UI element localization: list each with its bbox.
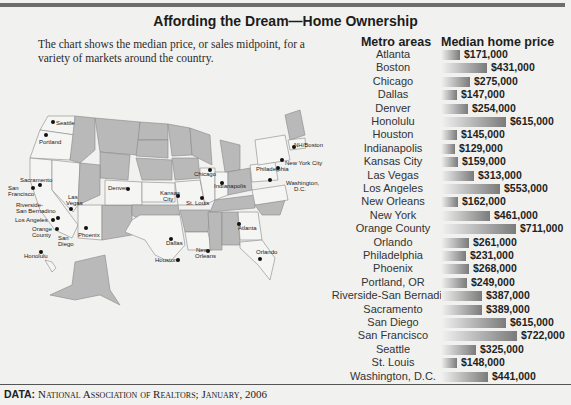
price-value: $162,000 bbox=[462, 195, 506, 208]
price-value: $129,000 bbox=[459, 142, 503, 155]
bar bbox=[441, 238, 469, 248]
price-value: $159,000 bbox=[462, 155, 506, 168]
bar-row-dallas: Dallas$147,000 bbox=[0, 88, 571, 101]
bar bbox=[441, 291, 482, 301]
bar-row-orange-county: Orange County$711,000 bbox=[0, 222, 571, 235]
metro-areas-header: Metro areas bbox=[346, 35, 446, 49]
bar-row-washington-dc: Washington, D.C.$441,000 bbox=[0, 370, 571, 383]
bar bbox=[441, 211, 490, 221]
bar bbox=[441, 117, 506, 127]
price-value: $313,000 bbox=[478, 169, 522, 182]
bar-row-san-francisco: San Francisco$722,000 bbox=[0, 329, 571, 342]
bar bbox=[441, 331, 517, 341]
price-value: $553,000 bbox=[504, 182, 548, 195]
bar-row-orlando: Orlando$261,000 bbox=[0, 236, 571, 249]
price-value: $431,000 bbox=[491, 61, 535, 74]
bar-row-portland: Portland, OR$249,000 bbox=[0, 276, 571, 289]
bar-row-los-angeles: Los Angeles$553,000 bbox=[0, 182, 571, 195]
bar-row-las-vegas: Las Vegas$313,000 bbox=[0, 169, 571, 182]
price-value: $261,000 bbox=[473, 236, 517, 249]
footer-divider bbox=[0, 384, 571, 385]
bar-row-kansas-city: Kansas City$159,000 bbox=[0, 155, 571, 168]
bar bbox=[441, 345, 476, 355]
bar bbox=[441, 184, 500, 194]
bar bbox=[441, 63, 487, 73]
price-value: $461,000 bbox=[494, 209, 538, 222]
bar bbox=[441, 130, 457, 140]
bar bbox=[441, 90, 457, 100]
bar bbox=[441, 358, 457, 368]
bar bbox=[441, 157, 458, 167]
bar bbox=[441, 50, 460, 60]
bar bbox=[441, 224, 516, 234]
price-value: $722,000 bbox=[521, 329, 565, 342]
price-value: $268,000 bbox=[473, 262, 517, 275]
bar bbox=[441, 264, 469, 274]
price-value: $441,000 bbox=[492, 370, 536, 383]
price-value: $387,000 bbox=[486, 289, 530, 302]
bar-row-st-louis: St. Louis$148,000 bbox=[0, 356, 571, 369]
bar-row-new-orleans: New Orleans$162,000 bbox=[0, 195, 571, 208]
bar bbox=[441, 305, 482, 315]
bar bbox=[441, 278, 467, 288]
price-value: $615,000 bbox=[510, 316, 554, 329]
bar bbox=[441, 251, 466, 261]
price-value: $275,000 bbox=[474, 75, 518, 88]
bar-row-phoenix: Phoenix$268,000 bbox=[0, 262, 571, 275]
top-rule bbox=[0, 3, 565, 7]
data-source: DATA: National Association of Realtors; … bbox=[4, 388, 267, 400]
price-value: $389,000 bbox=[486, 303, 530, 316]
price-value: $249,000 bbox=[471, 276, 515, 289]
price-value: $145,000 bbox=[461, 128, 505, 141]
source-text: National Association of Realtors; Januar… bbox=[38, 388, 267, 400]
price-value: $254,000 bbox=[472, 102, 516, 115]
bar-row-riverside-san-bernadino: Riverside-San Bernadino$387,000 bbox=[0, 289, 571, 302]
bar-row-seattle: Seattle$325,000 bbox=[0, 343, 571, 356]
price-value: $231,000 bbox=[470, 249, 514, 262]
bar bbox=[441, 171, 474, 181]
bar bbox=[441, 104, 468, 114]
bar bbox=[441, 197, 458, 207]
bar-row-new-york: New York$461,000 bbox=[0, 209, 571, 222]
chart-title: Affording the Dream—Home Ownership bbox=[0, 13, 571, 29]
bar-row-atlanta: Atlanta$171,000 bbox=[0, 48, 571, 61]
bar bbox=[441, 77, 470, 87]
price-value: $711,000 bbox=[520, 222, 563, 235]
price-value: $147,000 bbox=[461, 88, 505, 101]
bar-row-indianapolis: Indianapolis$129,000 bbox=[0, 142, 571, 155]
price-value: $148,000 bbox=[461, 356, 505, 369]
bar-row-philadelphia: Philadelphia$231,000 bbox=[0, 249, 571, 262]
bar-row-sacramento: Sacramento$389,000 bbox=[0, 303, 571, 316]
bar-row-san-diego: San Diego$615,000 bbox=[0, 316, 571, 329]
bar bbox=[441, 144, 455, 154]
price-value: $171,000 bbox=[464, 48, 508, 61]
bar-row-houston: Houston$145,000 bbox=[0, 128, 571, 141]
bar-row-honolulu: Honolulu$615,000 bbox=[0, 115, 571, 128]
source-label: DATA: bbox=[4, 388, 35, 400]
price-value: $325,000 bbox=[480, 343, 524, 356]
bar-row-denver: Denver$254,000 bbox=[0, 102, 571, 115]
bar-row-chicago: Chicago$275,000 bbox=[0, 75, 571, 88]
bar bbox=[441, 318, 506, 328]
median-price-header: Median home price bbox=[441, 35, 554, 49]
bar-row-boston: Boston$431,000 bbox=[0, 61, 571, 74]
bar bbox=[441, 372, 488, 382]
price-value: $615,000 bbox=[510, 115, 554, 128]
